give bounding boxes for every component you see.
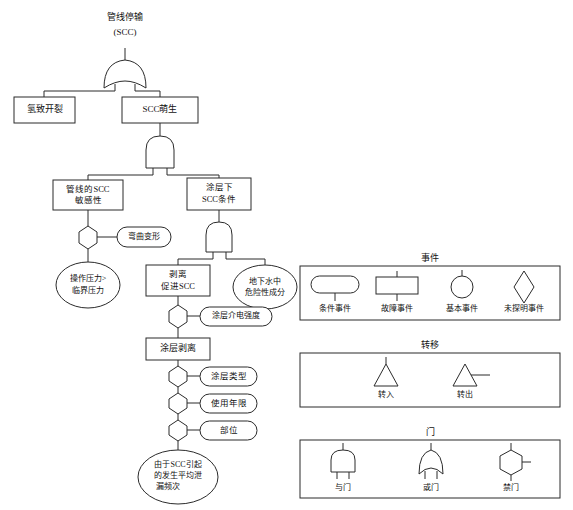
or-gate-top xyxy=(104,60,146,88)
shape-bending-deformation xyxy=(117,227,171,247)
inhibit-gate-service-life xyxy=(169,393,187,414)
shape-avg-leak-frequency xyxy=(138,450,218,504)
box-pipeline-scc-susceptibility xyxy=(53,180,123,210)
shape-coating-type xyxy=(200,367,257,386)
legend-rect-icon xyxy=(376,277,418,294)
box-hydrogen-cracking xyxy=(14,97,75,123)
shape-groundwater-hazard xyxy=(233,265,297,309)
and-gate-scc-initiation xyxy=(146,136,174,168)
and-gate-under-coating xyxy=(206,222,232,252)
legend-inhibit-gate-icon xyxy=(500,450,522,475)
box-under-coating-scc-condition xyxy=(187,178,251,210)
shape-operating-pressure xyxy=(56,262,120,308)
legend-circle-icon xyxy=(451,276,473,298)
box-scc-initiation xyxy=(122,97,198,123)
inhibit-gate-dielectric xyxy=(169,305,187,328)
fault-tree-canvas xyxy=(0,0,573,510)
shape-location xyxy=(200,421,257,440)
shape-service-life xyxy=(200,394,257,413)
shape-coating-dielectric-strength xyxy=(200,307,272,326)
legend-rounded-rect-icon xyxy=(311,276,359,293)
box-coating-disbondment xyxy=(146,338,210,360)
inhibit-gate-coating-type xyxy=(169,366,187,387)
inhibit-gate-bending xyxy=(79,226,97,249)
box-disbondment-promotes-scc xyxy=(146,265,210,296)
legend-transfer-box xyxy=(300,353,560,407)
legend-and-gate-icon xyxy=(331,450,355,472)
inhibit-gate-location xyxy=(169,420,187,441)
